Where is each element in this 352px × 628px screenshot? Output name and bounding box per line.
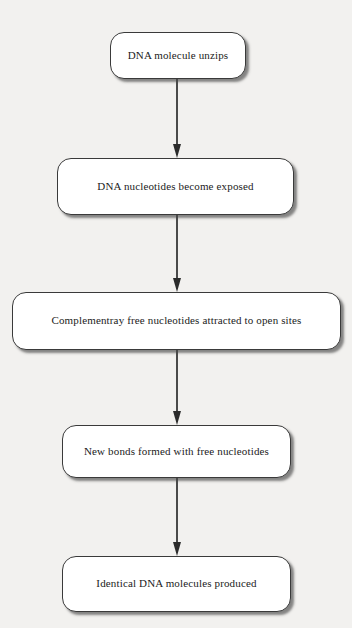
arrow-shaft (176, 215, 178, 279)
arrow-shaft (176, 350, 178, 412)
flowchart-node-label: New bonds formed with free nucleotides (84, 445, 269, 459)
flowchart-node-step-2: DNA nucleotides become exposed (57, 158, 294, 215)
flowchart-node-label: DNA nucleotides become exposed (97, 180, 253, 194)
flowchart-arrow-step-1-to-step-2 (171, 79, 183, 158)
flowchart-node-label: DNA molecule unzips (128, 49, 229, 63)
arrow-head-down-icon (173, 144, 181, 158)
arrow-head-down-icon (173, 411, 181, 425)
arrow-head-down-icon (173, 278, 181, 292)
flowchart-node-label: Complementray free nucleotides attracted… (51, 314, 301, 328)
flowchart-node-label: Identical DNA molecules produced (96, 577, 256, 591)
arrow-shaft (176, 478, 178, 543)
flowchart-node-step-5: Identical DNA molecules produced (62, 556, 291, 612)
flowchart-node-step-3: Complementray free nucleotides attracted… (12, 292, 341, 350)
flowchart-arrow-step-2-to-step-3 (171, 215, 183, 292)
flowchart-node-step-1: DNA molecule unzips (110, 32, 246, 79)
flowchart-arrow-step-4-to-step-5 (171, 478, 183, 556)
flowchart-node-step-4: New bonds formed with free nucleotides (62, 425, 291, 478)
flowchart-arrow-step-3-to-step-4 (171, 350, 183, 425)
arrow-shaft (176, 79, 178, 145)
arrow-head-down-icon (173, 542, 181, 556)
flowchart-diagram: DNA molecule unzips DNA nucleotides beco… (0, 0, 352, 628)
